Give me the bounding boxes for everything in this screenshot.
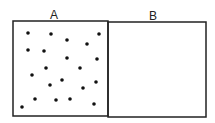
box-b: [108, 22, 206, 117]
particle-dot: [60, 78, 64, 82]
particle-dot: [65, 38, 69, 42]
particle-dot: [33, 97, 37, 101]
particle-dot: [81, 86, 85, 90]
particle-dot: [65, 56, 69, 60]
particle-dot: [95, 57, 99, 61]
particle-dot: [78, 66, 82, 70]
particle-dot: [26, 48, 30, 52]
particle-dot: [20, 105, 24, 109]
particle-dot: [48, 83, 52, 87]
particle-dot: [97, 32, 101, 36]
particle-dot: [92, 102, 96, 106]
particle-dot: [68, 97, 72, 101]
particle-dot: [44, 66, 48, 70]
particle-dot: [94, 80, 98, 84]
particle-dot: [49, 32, 53, 36]
box-a: [13, 21, 108, 116]
two-box-diagram: [0, 0, 215, 123]
box-b-label: B: [149, 10, 157, 22]
particle-dot: [85, 42, 89, 46]
particle-dot: [54, 98, 58, 102]
particle-dot: [42, 49, 46, 53]
box-a-label: A: [50, 9, 58, 21]
particle-dot: [30, 73, 34, 77]
particle-dot: [26, 31, 30, 35]
